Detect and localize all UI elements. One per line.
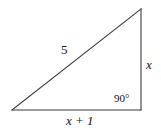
right-angle-label: 90° [114, 93, 129, 104]
vertical-side-length-label: x [146, 58, 152, 71]
geometry-figure: 5 x x + 1 90° [0, 0, 161, 136]
base-side-length-label: x + 1 [66, 114, 94, 127]
hypotenuse-length-label: 5 [61, 43, 68, 56]
